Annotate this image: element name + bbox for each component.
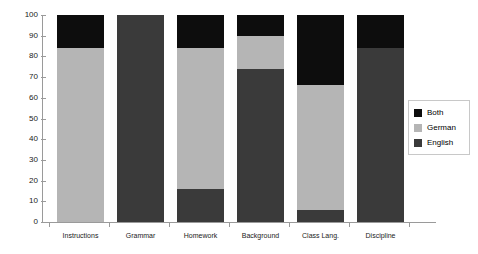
bar-segment-german xyxy=(237,36,284,69)
y-axis-tick: 60 xyxy=(0,98,46,99)
y-tick-label: 10 xyxy=(29,195,38,206)
y-axis-tick: 0 xyxy=(0,222,46,223)
y-tick-label: 30 xyxy=(29,154,38,165)
bar-segment-english xyxy=(237,69,284,222)
plot-area xyxy=(42,15,400,222)
x-axis-label: Background xyxy=(227,231,294,241)
bar-instructions xyxy=(57,15,104,222)
bar-segment-german xyxy=(297,85,344,209)
x-tick-mark xyxy=(409,222,410,227)
bar-segment-both xyxy=(237,15,284,36)
y-axis-tick: 30 xyxy=(0,160,46,161)
x-tick-mark xyxy=(49,222,50,227)
y-axis-tick: 100 xyxy=(0,15,46,16)
x-axis-label: Class Lang. xyxy=(287,231,354,241)
x-tick-mark xyxy=(109,222,110,227)
y-tick-label: 80 xyxy=(29,50,38,61)
bar-segment-english xyxy=(177,189,224,222)
legend-item-english: English xyxy=(414,136,465,149)
y-axis-tick: 50 xyxy=(0,119,46,120)
y-axis-tick: 10 xyxy=(0,201,46,202)
x-axis-label: Instructions xyxy=(47,231,114,241)
x-tick-mark xyxy=(229,222,230,227)
y-axis-tick: 90 xyxy=(0,36,46,37)
x-tick-mark xyxy=(289,222,290,227)
legend-item-german: German xyxy=(414,121,465,134)
x-axis-label: Homework xyxy=(167,231,234,241)
legend-label-german: German xyxy=(427,123,456,133)
bar-grammar xyxy=(117,15,164,222)
bar-segment-both xyxy=(297,15,344,85)
legend-label-both: Both xyxy=(427,108,443,118)
bar-background xyxy=(237,15,284,222)
y-axis-tick: 70 xyxy=(0,77,46,78)
bar-segment-both xyxy=(177,15,224,48)
y-tick-label: 100 xyxy=(25,9,38,20)
x-tick-mark xyxy=(349,222,350,227)
bar-segment-both xyxy=(57,15,104,48)
y-tick-mark xyxy=(41,222,46,223)
bar-segment-english xyxy=(117,15,164,222)
bar-segment-german xyxy=(57,48,104,222)
x-axis-line xyxy=(42,222,436,223)
bar-discipline xyxy=(357,15,404,222)
bar-homework xyxy=(177,15,224,222)
y-tick-label: 90 xyxy=(29,30,38,41)
y-tick-label: 0 xyxy=(34,216,38,227)
y-tick-label: 50 xyxy=(29,113,38,124)
legend-label-english: English xyxy=(427,138,453,148)
legend-swatch-german xyxy=(414,124,422,132)
y-tick-label: 20 xyxy=(29,175,38,186)
bar-segment-english xyxy=(357,48,404,222)
x-tick-mark xyxy=(169,222,170,227)
x-axis-label: Grammar xyxy=(107,231,174,241)
legend-swatch-english xyxy=(414,139,422,147)
y-axis-tick: 80 xyxy=(0,56,46,57)
legend-swatch-both xyxy=(414,109,422,117)
bar-class-lang xyxy=(297,15,344,222)
y-axis-tick: 20 xyxy=(0,181,46,182)
y-axis-tick: 40 xyxy=(0,139,46,140)
stacked-bar-chart: 0102030405060708090100 InstructionsGramm… xyxy=(0,0,478,254)
x-axis-label: Discipline xyxy=(347,231,414,241)
y-tick-label: 70 xyxy=(29,71,38,82)
bar-segment-english xyxy=(297,210,344,222)
y-tick-label: 60 xyxy=(29,92,38,103)
chart-legend: Both German English xyxy=(408,100,470,155)
y-tick-label: 40 xyxy=(29,133,38,144)
bar-segment-german xyxy=(177,48,224,189)
bar-segment-both xyxy=(357,15,404,48)
legend-item-both: Both xyxy=(414,106,465,119)
